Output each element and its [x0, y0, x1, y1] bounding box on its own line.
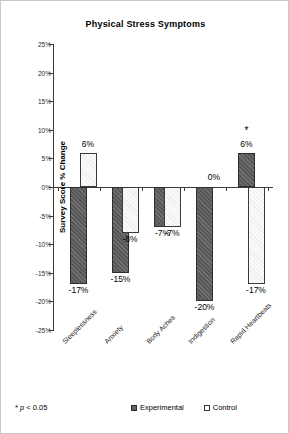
chart-legend: Experimental Control [131, 403, 237, 412]
bar-group: 6%*-17% [226, 44, 268, 330]
footnote-symbol: * [15, 403, 18, 412]
significance-footnote: * p < 0.05 [15, 403, 47, 412]
y-tick-label: 15% [38, 98, 51, 105]
y-tick-label: -10% [36, 241, 51, 248]
bar-experimental[interactable] [70, 187, 87, 284]
bar-value-label: -15% [111, 274, 131, 284]
y-tick-label: 25% [38, 41, 51, 48]
bar-value-label: 6% [82, 139, 94, 149]
bar-group: -20%0% [184, 44, 226, 330]
footnote-rest: < 0.05 [24, 403, 47, 412]
bar-control[interactable] [248, 187, 265, 284]
bar-value-label: -20% [195, 302, 215, 312]
y-tick-label: 5% [42, 155, 51, 162]
legend-item-control[interactable]: Control [204, 403, 237, 412]
bar-value-label: 6% [240, 139, 252, 149]
bar-control[interactable] [122, 187, 139, 233]
bar-value-label: -17% [69, 285, 89, 295]
x-tick [268, 187, 269, 191]
y-tick-label: 20% [38, 69, 51, 76]
bar-value-label: -7% [164, 228, 179, 238]
chart-page: { "chart_data": { "type": "bar", "title"… [0, 0, 289, 434]
bar-group: -7%-7% [142, 44, 184, 330]
chart-title: Physical Stress Symptoms [1, 19, 289, 29]
y-tick-label: 10% [38, 126, 51, 133]
y-tick-label: -5% [39, 212, 51, 219]
legend-swatch-experimental-icon [131, 405, 137, 411]
y-tick-label: -15% [36, 269, 51, 276]
y-tick-label: 0% [42, 184, 51, 191]
bar-group: -17%6% [58, 44, 100, 330]
bar-value-label: 0% [208, 172, 220, 182]
legend-swatch-control-icon [204, 405, 210, 411]
significance-marker: * [245, 125, 249, 136]
legend-label-experimental: Experimental [140, 403, 184, 412]
legend-label-control: Control [213, 403, 237, 412]
bar-group: -15%-8% [100, 44, 142, 330]
bar-control[interactable] [80, 153, 97, 187]
bar-experimental[interactable] [196, 187, 213, 301]
legend-item-experimental[interactable]: Experimental [131, 403, 184, 412]
plot-area: Survey Score % Change 25%20%15%10%5%0%-5… [58, 44, 273, 330]
bar-experimental[interactable] [238, 153, 255, 187]
bar-value-label: -8% [122, 234, 137, 244]
y-tick-label: -25% [36, 327, 51, 334]
bar-control[interactable] [164, 187, 181, 227]
y-tick-label: -20% [36, 298, 51, 305]
bar-value-label: -17% [246, 285, 266, 295]
